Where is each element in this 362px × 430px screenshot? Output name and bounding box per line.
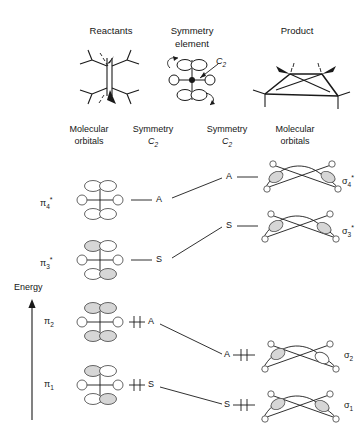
correlation-line-A-upper: [172, 178, 222, 198]
level-line-pi1-occupied: [129, 379, 145, 391]
symmetry-right-row3: S: [226, 220, 232, 231]
symmetry-right-row1: S: [224, 399, 230, 410]
label-pi4-star: π4*: [40, 194, 53, 212]
label-sigma2: σ2: [344, 350, 353, 364]
mo-sigma1-drawing: [262, 391, 339, 422]
mo-pi1-drawing: [77, 366, 123, 405]
symmetry-left-row3: S: [156, 254, 162, 265]
mo-pi3-star-drawing: [77, 241, 123, 280]
label-sigma3-star: σ3*: [342, 222, 354, 240]
correlation-line-A-lower: [160, 324, 222, 354]
mo-sigma4-star-drawing: [264, 161, 341, 192]
level-line-pi2-occupied: [129, 316, 145, 328]
mo-pi4-star-drawing: [77, 181, 123, 220]
label-pi1: π1: [44, 379, 54, 393]
symmetry-left-row2: A: [148, 316, 154, 327]
mo-pi2-drawing: [77, 303, 123, 342]
symmetry-right-row4: A: [226, 171, 232, 182]
level-line-sigma2-occupied: [233, 349, 255, 361]
label-pi2: π2: [44, 316, 54, 330]
symmetry-left-row1: S: [148, 379, 154, 390]
correlation-line-S-upper: [172, 227, 222, 258]
mo-sigma3-star-drawing: [262, 211, 339, 242]
symmetry-right-row2: A: [224, 349, 230, 360]
label-sigma1: σ1: [344, 400, 353, 414]
label-pi3-star: π3*: [40, 254, 53, 272]
level-line-sigma1-occupied: [233, 399, 255, 411]
mo-sigma2-drawing: [262, 341, 339, 372]
correlation-lines-and-orbitals: [0, 0, 362, 430]
correlation-line-S-lower: [160, 387, 222, 404]
symmetry-left-row4: A: [156, 194, 162, 205]
label-sigma4-star: σ4*: [342, 172, 354, 190]
orbital-correlation-diagram: Reactants Symmetry element Product: [0, 0, 362, 430]
